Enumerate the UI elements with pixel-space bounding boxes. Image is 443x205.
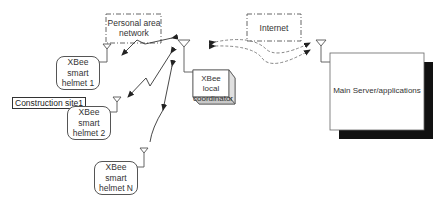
helmet-1-node: XBee smart helmet 1 — [56, 56, 100, 90]
antenna-icon — [136, 148, 148, 167]
wireless-link-helmet2 — [128, 53, 171, 97]
server-label: Main Server/applications — [330, 86, 424, 96]
wireless-link-helmet1 — [122, 38, 172, 55]
helmet-n-node: XBee smart helmet N — [94, 161, 138, 195]
helmet-2-node: XBee smart helmet 2 — [67, 106, 111, 140]
internet-link-lower — [215, 46, 310, 64]
antenna-icon — [316, 40, 330, 62]
antenna-icon — [178, 40, 196, 72]
internet-link-upper — [215, 40, 310, 53]
internet-label: Internet — [247, 23, 301, 33]
pan-label: Personal area network — [106, 18, 162, 38]
antenna-icon — [98, 44, 111, 62]
wireless-link-helmetN — [163, 66, 172, 110]
coordinator-label: XBee local coordinator — [193, 74, 229, 104]
